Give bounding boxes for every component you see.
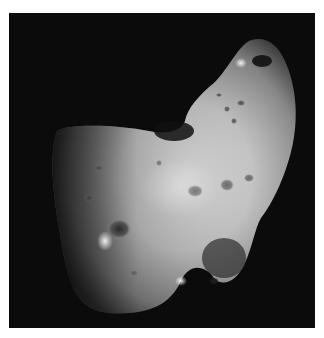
asteroid-photo: [9, 13, 315, 328]
asteroid-illustration: [9, 13, 315, 328]
